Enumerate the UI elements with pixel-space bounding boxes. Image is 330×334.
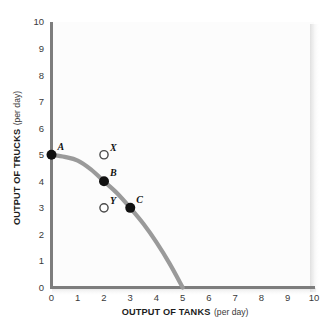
panel-shadow-right — [310, 24, 320, 292]
y-tick-label: 8 — [39, 70, 44, 81]
y-tick-label: 2 — [39, 229, 44, 240]
x-tick-label: 6 — [206, 292, 211, 303]
y-tick-label: 1 — [39, 255, 44, 266]
data-point-x — [100, 151, 108, 159]
x-tick-label: 4 — [154, 292, 159, 303]
y-tick-label: 6 — [39, 123, 44, 134]
data-point-label-c: C — [136, 194, 143, 205]
y-tick-label: 7 — [39, 96, 44, 107]
y-tick-labels: 012345678910 — [33, 16, 44, 293]
data-point-label-b: B — [109, 167, 117, 178]
chart-canvas: 012345678910012345678910ABCXYOUTPUT OF T… — [0, 0, 330, 334]
y-tick-label: 5 — [39, 149, 44, 160]
data-point-b — [99, 176, 109, 186]
data-point-y — [100, 204, 108, 212]
y-tick-label: 0 — [39, 282, 44, 293]
y-tick-label: 4 — [39, 176, 44, 187]
x-tick-label: 0 — [49, 292, 54, 303]
x-tick-label: 10 — [309, 292, 320, 303]
data-point-label-a: A — [57, 141, 65, 152]
data-point-label-x: X — [109, 142, 117, 153]
x-tick-label: 1 — [75, 292, 80, 303]
y-axis-title-text: OUTPUT OF TRUCKS(per day) — [12, 91, 22, 225]
y-tick-label: 3 — [39, 202, 44, 213]
y-tick-label: 9 — [39, 43, 44, 54]
data-point-c — [125, 203, 135, 213]
x-tick-label: 7 — [233, 292, 238, 303]
y-tick-label: 10 — [33, 16, 44, 27]
x-axis-title: OUTPUT OF TANKS(per day) — [122, 307, 249, 317]
data-point-label-y: Y — [110, 195, 117, 206]
plot-panel — [50, 22, 314, 288]
ppf-chart: 012345678910012345678910ABCXYOUTPUT OF T… — [0, 0, 330, 334]
y-axis-title: OUTPUT OF TRUCKS(per day) — [12, 91, 22, 225]
data-point-a — [47, 150, 57, 160]
x-tick-label: 5 — [180, 292, 185, 303]
x-tick-label: 8 — [259, 292, 264, 303]
x-tick-label: 9 — [285, 292, 290, 303]
x-axis-title-text: OUTPUT OF TANKS(per day) — [122, 307, 249, 317]
x-tick-label: 3 — [128, 292, 133, 303]
x-tick-label: 2 — [101, 292, 106, 303]
